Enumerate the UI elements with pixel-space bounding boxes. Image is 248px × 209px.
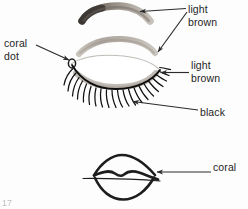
label-light-brown-middle: light brown (191, 59, 220, 84)
label-black: black (200, 106, 225, 119)
label-coral: coral (213, 161, 236, 174)
closed-eye-icon (71, 55, 160, 91)
label-light-brown-top: light brown (188, 3, 217, 28)
makeup-diagram-artwork (0, 0, 248, 209)
page-number: 17 (2, 198, 12, 208)
figure-container: light brown coral dot light brown black … (0, 0, 248, 209)
eyelid-crease-stroke-icon (79, 39, 155, 54)
eyebrow-stroke-icon (82, 6, 150, 21)
lips-icon (83, 155, 160, 200)
label-coral-dot: coral dot (4, 37, 27, 62)
